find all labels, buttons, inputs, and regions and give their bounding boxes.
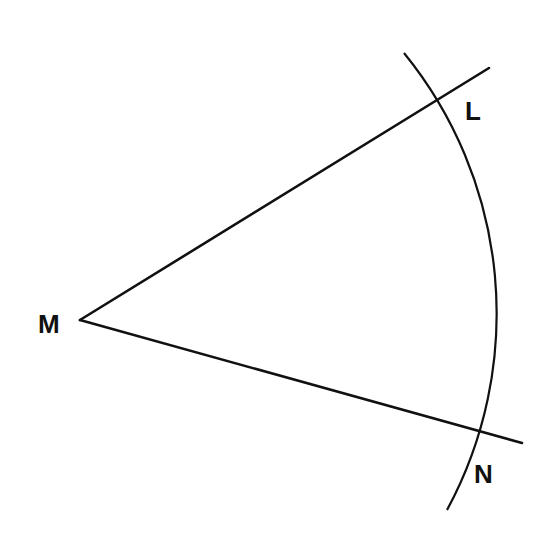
label-l: L <box>465 96 481 126</box>
ray-ml <box>80 68 489 320</box>
label-m: M <box>38 309 60 339</box>
diagram-canvas: M L N <box>0 0 555 550</box>
arc-centered-m <box>404 53 497 510</box>
label-n: N <box>474 459 493 489</box>
ray-mn <box>80 320 522 443</box>
